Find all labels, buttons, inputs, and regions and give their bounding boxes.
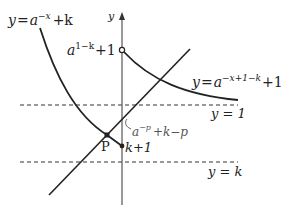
point-P-marker bbox=[105, 133, 110, 138]
point-k1-label: k+1 bbox=[125, 140, 152, 155]
y-axis-arrow-icon bbox=[119, 12, 125, 20]
curve1-label: y=a−x+k bbox=[7, 11, 73, 28]
open-point bbox=[119, 47, 124, 52]
curve2-label: y=a−x+1−k+1 bbox=[191, 73, 283, 90]
graph-diagram: y y=a−x+k a1−k+1 y=a−x+1−k+1 y = 1 y = k… bbox=[0, 0, 304, 217]
asymptote-y1-label: y = 1 bbox=[210, 106, 246, 121]
point-P-label: P bbox=[101, 139, 110, 154]
diagonal-line bbox=[49, 49, 190, 195]
annotation-arrow-icon bbox=[126, 119, 131, 129]
annotation-label: a−p+k−p bbox=[132, 123, 188, 139]
asymptote-yk-label: y = k bbox=[207, 164, 243, 179]
open-point-label: a1−k+1 bbox=[67, 41, 116, 58]
y-axis-label: y bbox=[107, 10, 115, 23]
point-k1-marker bbox=[120, 144, 125, 149]
